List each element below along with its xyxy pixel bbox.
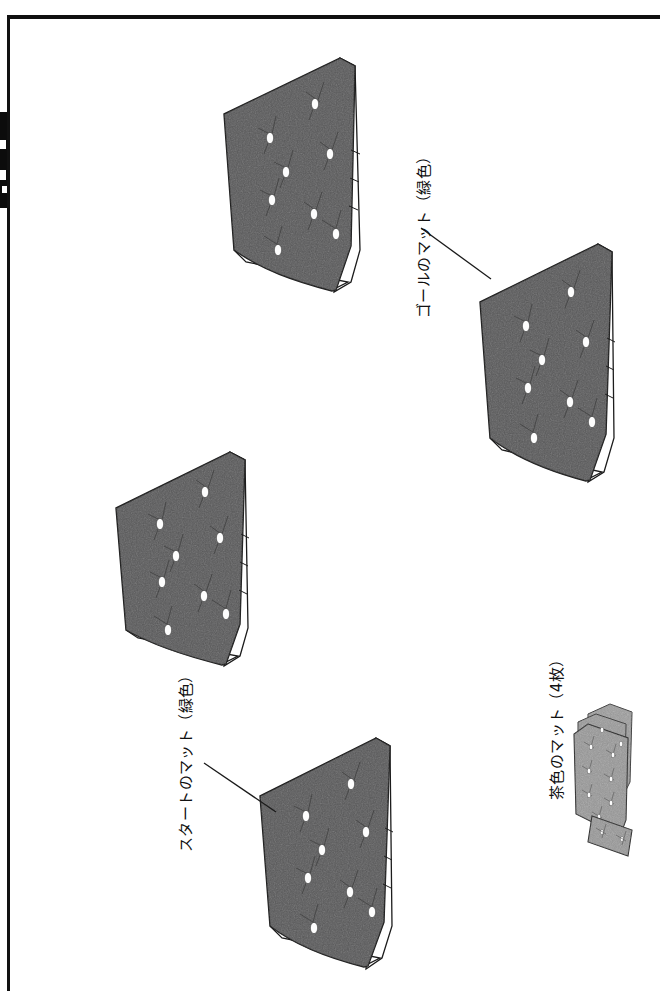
page-edge-glyph-fragment [0, 112, 7, 208]
mat-goal [462, 232, 627, 507]
label-start-mat: スタートのマット（緑色） [174, 667, 195, 852]
label-goal-mat: ゴールのマット（緑色） [412, 149, 433, 318]
diagram-page: ゴールのマット（緑色） スタートのマット（緑色） 茶色のマット（4枚） [0, 0, 660, 991]
mat-start [246, 728, 406, 990]
page-edge-glyph-notch [2, 186, 7, 193]
mat-top-center [214, 50, 374, 320]
mat-brown-stack [566, 700, 658, 875]
mat-middle-left [108, 442, 268, 697]
page-edge-glyph-notch [0, 140, 6, 149]
page-edge-glyph-notch [0, 170, 6, 180]
page-border-top [7, 15, 660, 19]
label-brown-mats: 茶色のマット（4枚） [545, 651, 566, 800]
page-border-left [7, 15, 10, 991]
